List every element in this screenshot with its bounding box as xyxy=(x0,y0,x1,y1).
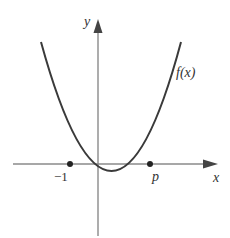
parabola-diagram: y x f(x) −1 p xyxy=(0,0,230,238)
x-axis-label: x xyxy=(212,170,220,185)
x-axis-arrow-icon xyxy=(203,160,218,169)
root-right-label: p xyxy=(151,169,159,184)
root-point-left xyxy=(67,161,73,167)
root-left-label: −1 xyxy=(54,169,68,184)
y-axis-arrow-icon xyxy=(94,19,103,33)
curve-label: f(x) xyxy=(176,65,196,81)
y-axis-label: y xyxy=(82,14,91,29)
root-point-right xyxy=(147,161,153,167)
parabola-curve xyxy=(41,42,181,171)
